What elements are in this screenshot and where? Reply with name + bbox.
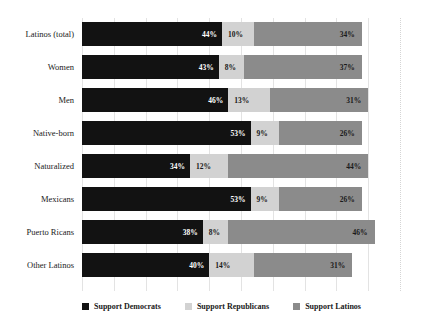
legend-item: Support Latinos	[293, 302, 361, 311]
category-label: Men	[58, 88, 74, 112]
bar-segment-support-republicans: 14%	[209, 253, 254, 277]
bar-row: Native-born53%9%26%	[82, 121, 400, 145]
bar-value-label: 26%	[340, 129, 355, 138]
bar-segment-support-republicans: 12%	[190, 154, 228, 178]
bar-value-label: 38%	[183, 228, 198, 237]
bar-value-label: 14%	[215, 261, 230, 270]
bar-segment-support-latinos: 44%	[228, 154, 368, 178]
bar-value-label: 46%	[353, 228, 368, 237]
category-label: Women	[48, 55, 74, 79]
category-label: Latinos (total)	[26, 22, 74, 46]
bar-value-label: 43%	[199, 63, 214, 72]
category-label: Other Latinos	[27, 253, 74, 277]
bar-row: Women43%8%37%	[82, 55, 400, 79]
bar-row: Other Latinos40%14%31%	[82, 253, 400, 277]
bar-row: Naturalized34%12%44%	[82, 154, 400, 178]
chart-legend: Support DemocratsSupport RepublicansSupp…	[82, 302, 361, 311]
bar-value-label: 44%	[346, 162, 361, 171]
category-label: Naturalized	[34, 154, 74, 178]
bar-segment-support-democrats: 44%	[82, 22, 222, 46]
bar-value-label: 37%	[340, 63, 355, 72]
bar-value-label: 53%	[231, 195, 246, 204]
bar-segment-support-democrats: 34%	[82, 154, 190, 178]
bar-value-label: 34%	[340, 30, 355, 39]
category-label: Puerto Ricans	[27, 220, 74, 244]
legend-item: Support Republicans	[185, 302, 269, 311]
bar-value-label: 40%	[189, 261, 204, 270]
bar-segment-support-democrats: 38%	[82, 220, 203, 244]
bar-value-label: 26%	[340, 195, 355, 204]
bar-segment-support-latinos: 31%	[254, 253, 353, 277]
bar-rows: Latinos (total)44%10%34%Women43%8%37%Men…	[82, 18, 400, 283]
bar-row: Latinos (total)44%10%34%	[82, 22, 400, 46]
bar-segment-support-republicans: 9%	[251, 121, 280, 145]
bar-value-label: 9%	[257, 195, 268, 204]
bar-segment-support-democrats: 40%	[82, 253, 209, 277]
bar-segment-support-latinos: 34%	[254, 22, 362, 46]
legend-label: Support Latinos	[305, 302, 361, 311]
bar-value-label: 44%	[202, 30, 217, 39]
bar-segment-support-democrats: 53%	[82, 121, 251, 145]
bar-value-label: 46%	[208, 96, 223, 105]
bar-segment-support-latinos: 31%	[270, 88, 369, 112]
stacked-bar-chart: Latinos (total)44%10%34%Women43%8%37%Men…	[0, 0, 430, 328]
legend-item: Support Democrats	[82, 302, 161, 311]
bar-segment-support-latinos: 37%	[244, 55, 362, 79]
gridline-100	[400, 18, 402, 291]
legend-swatch-icon	[185, 303, 192, 310]
bar-value-label: 8%	[225, 63, 236, 72]
bar-segment-support-latinos: 46%	[228, 220, 374, 244]
bar-segment-support-republicans: 10%	[222, 22, 254, 46]
bar-value-label: 31%	[330, 261, 345, 270]
bar-segment-support-democrats: 46%	[82, 88, 228, 112]
bar-row: Men46%13%31%	[82, 88, 400, 112]
bar-row: Puerto Ricans38%8%46%	[82, 220, 400, 244]
legend-label: Support Democrats	[94, 302, 161, 311]
bar-segment-support-latinos: 26%	[279, 121, 362, 145]
bar-value-label: 53%	[231, 129, 246, 138]
bar-segment-support-republicans: 13%	[228, 88, 269, 112]
bar-value-label: 10%	[228, 30, 243, 39]
bar-segment-support-latinos: 26%	[279, 187, 362, 211]
bar-row: Mexicans53%9%26%	[82, 187, 400, 211]
bar-segment-support-republicans: 8%	[219, 55, 244, 79]
bar-value-label: 13%	[234, 96, 249, 105]
plot-area: Latinos (total)44%10%34%Women43%8%37%Men…	[82, 18, 400, 283]
bar-value-label: 12%	[196, 162, 211, 171]
bar-segment-support-democrats: 43%	[82, 55, 219, 79]
legend-swatch-icon	[293, 303, 300, 310]
bar-segment-support-republicans: 9%	[251, 187, 280, 211]
bar-value-label: 31%	[346, 96, 361, 105]
bar-value-label: 9%	[257, 129, 268, 138]
bar-value-label: 34%	[170, 162, 185, 171]
category-label: Mexicans	[41, 187, 74, 211]
bar-segment-support-democrats: 53%	[82, 187, 251, 211]
legend-swatch-icon	[82, 303, 89, 310]
legend-label: Support Republicans	[197, 302, 269, 311]
bar-segment-support-republicans: 8%	[203, 220, 228, 244]
category-label: Native-born	[33, 121, 74, 145]
bar-value-label: 8%	[209, 228, 220, 237]
